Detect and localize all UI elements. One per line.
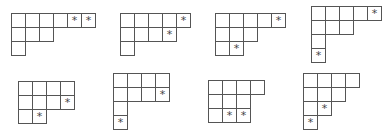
box bbox=[162, 13, 177, 28]
starred-box: * bbox=[271, 13, 286, 28]
asterisk-icon: * bbox=[276, 15, 282, 26]
box bbox=[339, 6, 354, 21]
box bbox=[243, 27, 258, 42]
box bbox=[236, 94, 251, 109]
box bbox=[113, 73, 128, 88]
box bbox=[134, 13, 149, 28]
box bbox=[345, 73, 360, 88]
box bbox=[127, 87, 142, 102]
box bbox=[222, 80, 237, 95]
box bbox=[353, 6, 368, 21]
box bbox=[120, 41, 135, 56]
box bbox=[303, 73, 318, 88]
box bbox=[60, 81, 75, 96]
box bbox=[18, 109, 33, 124]
box bbox=[120, 13, 135, 28]
asterisk-icon: * bbox=[234, 43, 240, 54]
starred-box: * bbox=[155, 87, 170, 102]
box bbox=[46, 81, 61, 96]
starred-box: * bbox=[60, 95, 75, 110]
starred-box: * bbox=[222, 108, 237, 123]
box bbox=[113, 87, 128, 102]
starred-box: * bbox=[81, 13, 96, 28]
starred-box: * bbox=[367, 6, 382, 21]
starred-box: * bbox=[229, 41, 244, 56]
asterisk-icon: * bbox=[37, 111, 43, 122]
box bbox=[141, 73, 156, 88]
asterisk-icon: * bbox=[160, 89, 166, 100]
box bbox=[331, 73, 346, 88]
box bbox=[32, 95, 47, 110]
box bbox=[127, 73, 142, 88]
asterisk-icon: * bbox=[308, 117, 314, 128]
asterisk-icon: * bbox=[227, 110, 233, 121]
box bbox=[236, 80, 251, 95]
box bbox=[229, 27, 244, 42]
box bbox=[25, 13, 40, 28]
asterisk-icon: * bbox=[322, 103, 328, 114]
box bbox=[250, 80, 265, 95]
box bbox=[215, 27, 230, 42]
starred-box: * bbox=[311, 48, 326, 63]
box bbox=[208, 108, 223, 123]
box bbox=[339, 20, 354, 35]
box bbox=[134, 27, 149, 42]
box bbox=[257, 13, 272, 28]
box bbox=[311, 20, 326, 35]
asterisk-icon: * bbox=[316, 50, 322, 61]
starred-box: * bbox=[236, 108, 251, 123]
box bbox=[32, 81, 47, 96]
box bbox=[229, 13, 244, 28]
starred-box: * bbox=[32, 109, 47, 124]
box bbox=[148, 13, 163, 28]
box bbox=[222, 94, 237, 109]
box bbox=[39, 27, 54, 42]
box bbox=[155, 73, 170, 88]
asterisk-icon: * bbox=[167, 29, 173, 40]
box bbox=[303, 87, 318, 102]
box bbox=[113, 101, 128, 116]
box bbox=[11, 13, 26, 28]
box bbox=[311, 6, 326, 21]
box bbox=[243, 13, 258, 28]
box bbox=[325, 6, 340, 21]
starred-box: * bbox=[317, 101, 332, 116]
box bbox=[325, 20, 340, 35]
box bbox=[317, 87, 332, 102]
box bbox=[311, 34, 326, 49]
box bbox=[317, 73, 332, 88]
box bbox=[120, 27, 135, 42]
box bbox=[53, 13, 68, 28]
box bbox=[215, 41, 230, 56]
starred-box: * bbox=[113, 115, 128, 130]
box bbox=[18, 95, 33, 110]
starred-box: * bbox=[176, 13, 191, 28]
box bbox=[303, 101, 318, 116]
box bbox=[148, 27, 163, 42]
asterisk-icon: * bbox=[118, 117, 124, 128]
box bbox=[208, 94, 223, 109]
box bbox=[208, 80, 223, 95]
asterisk-icon: * bbox=[86, 15, 92, 26]
box bbox=[25, 27, 40, 42]
asterisk-icon: * bbox=[372, 8, 378, 19]
asterisk-icon: * bbox=[72, 15, 78, 26]
starred-box: * bbox=[162, 27, 177, 42]
starred-box: * bbox=[67, 13, 82, 28]
box bbox=[39, 13, 54, 28]
box bbox=[215, 13, 230, 28]
box bbox=[11, 41, 26, 56]
box bbox=[11, 27, 26, 42]
asterisk-icon: * bbox=[181, 15, 187, 26]
asterisk-icon: * bbox=[241, 110, 247, 121]
starred-box: * bbox=[303, 115, 318, 130]
asterisk-icon: * bbox=[65, 97, 71, 108]
box bbox=[46, 95, 61, 110]
box bbox=[141, 87, 156, 102]
box bbox=[18, 81, 33, 96]
box bbox=[331, 87, 346, 102]
